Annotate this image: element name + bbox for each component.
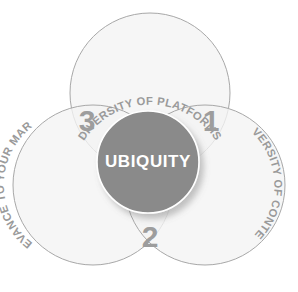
lobe-number-3: 3	[79, 104, 96, 137]
lobe-number-2: 2	[142, 220, 159, 253]
venn-canvas: DIVERSITY OF PLATFORMS DIVERSITY OF CONT…	[0, 0, 298, 292]
center-label: UBIQUITY	[105, 152, 191, 171]
lobe-number-1: 1	[203, 104, 220, 137]
venn-diagram: DIVERSITY OF PLATFORMS DIVERSITY OF CONT…	[0, 0, 298, 292]
center-disc-group[interactable]: UBIQUITY	[97, 111, 199, 213]
